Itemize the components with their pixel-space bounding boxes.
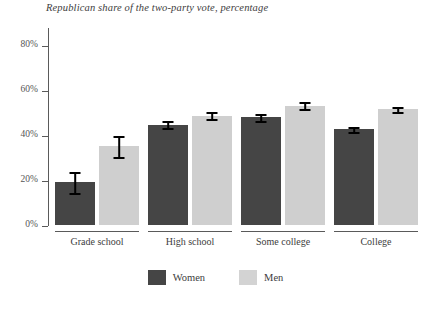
bar-women-high-school[interactable] [148,125,188,225]
error-bar [55,172,95,195]
bar-men-college[interactable] [378,109,418,225]
error-bar-cap-bottom [70,193,81,195]
y-axis-tick-label: 80% [0,39,38,49]
y-axis-tick-label: 60% [0,84,38,94]
x-axis-label-college: College [318,236,431,247]
error-bar [148,121,188,130]
legend-item-men[interactable]: Men [239,270,283,285]
y-axis-tick-label: 20% [0,174,38,184]
error-bar-cap-top [349,127,360,129]
bar-men-high-school[interactable] [192,116,232,225]
legend-swatch-icon [239,270,257,285]
bar-women-some-college[interactable] [241,117,281,225]
error-bar-cap-bottom [207,119,218,121]
error-bar-cap-top [163,121,174,123]
error-bar-cap-top [256,114,267,116]
x-axis-group-line [334,231,418,232]
bar-men-some-college[interactable] [285,106,325,225]
chart-title: Republican share of the two-party vote, … [46,2,268,13]
error-bar-cap-bottom [393,112,404,114]
chart-container: Republican share of the two-party vote, … [0,0,431,312]
error-bar-cap-bottom [349,132,360,134]
error-bar-cap-bottom [114,157,125,159]
chart-legend: WomenMen [0,270,431,285]
error-bar [241,114,281,123]
error-bar [334,127,374,134]
bar-women-college[interactable] [334,129,374,225]
x-axis-group-line [55,231,139,232]
x-axis-group-line [148,231,232,232]
error-bar-cap-top [300,102,311,104]
error-bar-stem [74,172,76,195]
legend-label: Women [173,272,205,283]
error-bar-cap-bottom [256,121,267,123]
error-bar-stem [118,136,120,159]
y-axis-tick-label: 0% [0,219,38,229]
error-bar-cap-bottom [163,128,174,130]
error-bar-cap-top [114,136,125,138]
error-bar [192,112,232,121]
error-bar [99,136,139,159]
y-axis-tick [42,226,48,227]
legend-label: Men [264,272,283,283]
plot-area [48,28,426,225]
error-bar-cap-bottom [300,109,311,111]
y-axis-tick-label: 40% [0,129,38,139]
error-bar-cap-top [207,112,218,114]
legend-swatch-icon [148,270,166,285]
legend-item-women[interactable]: Women [148,270,205,285]
error-bar-cap-top [70,172,81,174]
x-axis-group-line [241,231,325,232]
error-bar [285,102,325,111]
error-bar [378,107,418,114]
error-bar-cap-top [393,107,404,109]
